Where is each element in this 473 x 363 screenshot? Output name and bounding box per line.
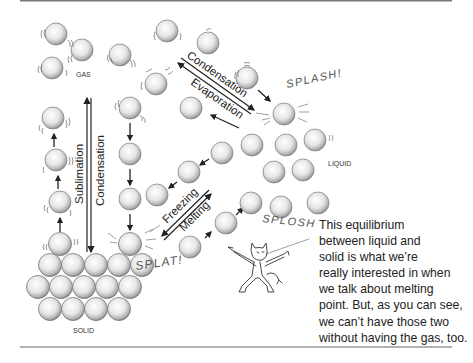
label-solid: SOLID: [73, 327, 94, 334]
devil-cartoon-icon: [228, 239, 309, 292]
label-sublimation: Sublimation: [73, 144, 85, 204]
sublimation-condensation-arrows: [87, 98, 91, 252]
caption-line: between liquid and: [319, 233, 469, 249]
caption-line: This equilibrium: [319, 217, 469, 233]
label-gas: GAS: [76, 71, 91, 78]
sfx-splash: SPLASH!: [285, 66, 343, 90]
solid-lattice: [27, 233, 154, 321]
caption-line: we can’t have those two: [319, 314, 469, 330]
caption-line: really interested in when: [319, 265, 469, 281]
label-condensation-vertical: Condensation: [94, 135, 106, 206]
label-liquid: LIQUID: [328, 160, 351, 168]
caption-line: without having the gas, too.: [319, 330, 469, 346]
caption-line: point. But, as you can see,: [319, 297, 469, 313]
caption-line: solid is what we’re: [319, 249, 469, 265]
caption-line: we talk about melting: [319, 281, 469, 297]
liquid-molecules: [240, 103, 329, 218]
sfx-splosh: SPLOSH: [262, 212, 317, 230]
caption-text: This equilibrium between liquid and soli…: [319, 217, 469, 346]
